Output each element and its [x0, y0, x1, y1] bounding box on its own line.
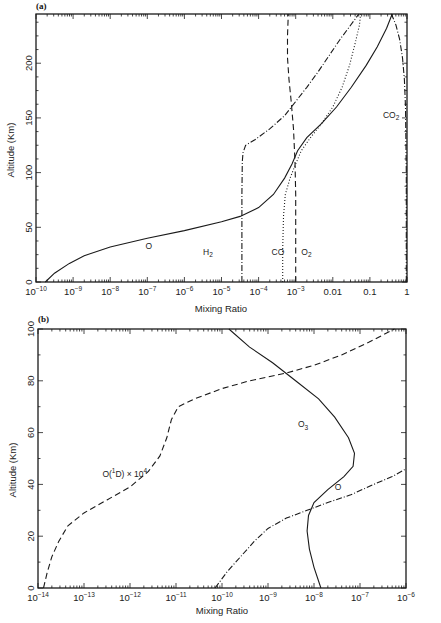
panel-a-series-labels: OH2COO2CO2 — [145, 110, 399, 258]
series-label: O2 — [301, 247, 312, 259]
panel-a-ticks: 10−1010−910−810−710−610−510−410−30.010.1… — [23, 14, 410, 297]
x-tick-label: 10−6 — [175, 285, 193, 297]
series-label: CO — [272, 247, 285, 257]
y-tick-label: 100 — [23, 165, 34, 181]
x-tick-label: 10−12 — [119, 591, 141, 603]
y-tick-label: 150 — [23, 110, 34, 126]
series-label: O3 — [298, 419, 309, 431]
panel-b-label: (b) — [38, 314, 49, 324]
panel-b-x-axis-title: Mixing Ratio — [196, 605, 248, 616]
x-tick-label: 10−4 — [250, 285, 268, 297]
panel-a-curves — [45, 14, 406, 282]
series-label: O — [145, 241, 152, 251]
panel-a-axes-frame — [36, 14, 407, 282]
x-tick-label: 1 — [404, 286, 409, 297]
x-tick-label: 10−9 — [64, 285, 82, 297]
x-tick-label: 10−14 — [27, 591, 49, 603]
y-tick-label: 80 — [25, 376, 36, 387]
panel-b-series-labels: O3O(1D) × 104O — [102, 419, 341, 491]
x-tick-label: 0.1 — [363, 286, 376, 297]
x-tick-label: 10−10 — [211, 591, 233, 603]
x-tick-label: 10−7 — [138, 285, 156, 297]
y-tick-label: 0 — [23, 279, 34, 284]
x-tick-label: 10−11 — [165, 591, 187, 603]
x-tick-label: 10−9 — [259, 591, 277, 603]
y-tick-label: 100 — [25, 321, 36, 337]
panel-a-x-axis-title: Mixing Ratio — [195, 303, 247, 314]
series-label: O — [335, 482, 342, 492]
x-tick-label: 10−5 — [213, 285, 231, 297]
panel-b-axes-frame — [38, 329, 406, 588]
panel-a-y-axis-title: Altitude (Km) — [5, 123, 16, 178]
series-label: H2 — [203, 247, 213, 259]
series-label: O(1D) × 104 — [102, 467, 147, 479]
series-o3-curve — [229, 329, 355, 588]
panel-b-y-axis-title: Altitude (Km) — [7, 443, 18, 498]
y-tick-label: 60 — [25, 427, 36, 438]
x-tick-label: 10−10 — [25, 285, 47, 297]
panel-b-ticks: 10−1410−1310−1210−1110−1010−910−810−710−… — [25, 321, 415, 603]
panel-b: (b) 10−1410−1310−1210−1110−1010−910−810−… — [7, 314, 415, 616]
y-tick-label: 40 — [25, 479, 36, 490]
series-h2-curve — [242, 14, 359, 282]
x-tick-label: 10−13 — [73, 591, 95, 603]
panel-b-curves — [44, 329, 407, 588]
y-tick-label: 200 — [23, 55, 34, 71]
x-tick-label: 10−8 — [305, 591, 323, 603]
chart-canvas: (a) 10−1010−910−810−710−610−510−410−30.0… — [0, 0, 441, 623]
series-o-curve — [45, 14, 392, 282]
panel-a-label: (a) — [36, 1, 47, 11]
x-tick-label: 10−7 — [351, 591, 369, 603]
series-o-1d-x-10-4-curve — [44, 329, 395, 588]
series-label: CO2 — [383, 110, 400, 122]
y-tick-label: 50 — [23, 222, 34, 233]
figure: (a) 10−1010−910−810−710−610−510−410−30.0… — [0, 0, 441, 623]
panel-a: (a) 10−1010−910−810−710−610−510−410−30.0… — [5, 1, 410, 314]
y-tick-label: 0 — [25, 585, 36, 590]
series-o-curve — [215, 469, 406, 588]
x-tick-label: 0.01 — [324, 286, 343, 297]
series-co2-curve — [391, 14, 406, 282]
x-tick-label: 10−6 — [397, 591, 415, 603]
x-tick-label: 10−3 — [287, 285, 305, 297]
y-tick-label: 20 — [25, 531, 36, 542]
x-tick-label: 10−8 — [101, 285, 119, 297]
series-o2-curve — [288, 14, 296, 282]
